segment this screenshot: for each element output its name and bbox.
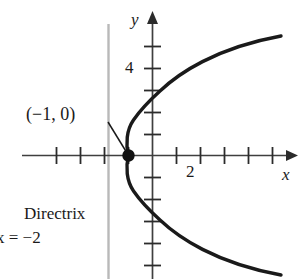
directrix-equation-label: x = −2 [0, 229, 41, 246]
parabola-figure: y x 4 2 (−1, 0) Directrix x = −2 [0, 0, 303, 279]
y-tick-label-4: 4 [125, 59, 134, 76]
x-axis-label: x [282, 166, 290, 183]
y-axis-label: y [131, 11, 139, 28]
parabola-upper-branch [127, 36, 281, 156]
directrix-label: Directrix [24, 205, 85, 222]
x-axis [22, 150, 298, 161]
plot-canvas [0, 0, 303, 279]
y-axis [147, 11, 158, 279]
annotation-leader-line [108, 122, 127, 153]
vertex-point-marker [122, 149, 134, 161]
parabola-lower-branch [127, 156, 281, 276]
x-tick-label-2: 2 [186, 163, 195, 180]
vertex-point-label: (−1, 0) [26, 105, 75, 123]
